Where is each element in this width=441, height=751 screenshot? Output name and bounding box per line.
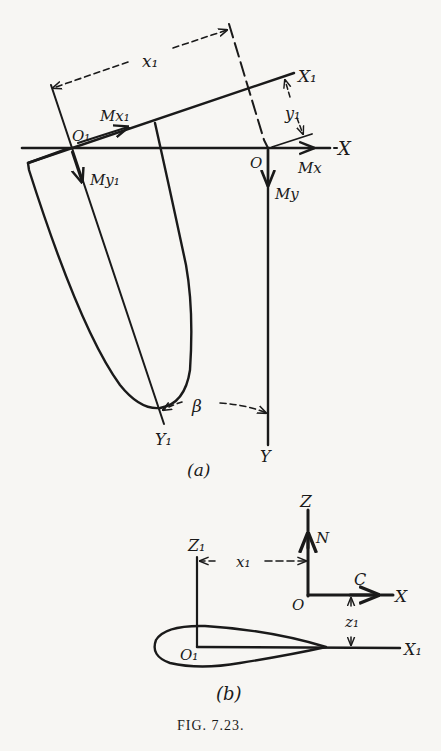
label-x1-dimension: x₁: [142, 51, 158, 71]
label-X1-axis: X₁: [296, 66, 317, 86]
wing-planform-outline: [28, 123, 191, 408]
beta-arc-right: [220, 403, 266, 413]
label-O1-b: O₁: [180, 646, 198, 664]
label-My: My: [274, 185, 299, 203]
label-C: C: [354, 570, 366, 589]
figure-canvas: x₁ X₁ y₁ O₁ Mx₁ My₁ O X Mx My β Y₁ Y (a): [0, 0, 441, 751]
label-O1: O₁: [72, 127, 90, 145]
label-Mx1: Mx₁: [99, 107, 130, 125]
label-X1-axis-b: X₁: [402, 640, 422, 659]
label-x1-dimension-b: x₁: [236, 553, 250, 571]
sublabel-a: (a): [187, 460, 210, 480]
label-O: O: [250, 154, 262, 172]
label-My1: My₁: [89, 171, 120, 189]
figure-caption: FIG. 7.23.: [177, 718, 245, 733]
part-a-diagram: x₁ X₁ y₁ O₁ Mx₁ My₁ O X Mx My β Y₁ Y (a): [22, 24, 352, 480]
x1-dimension-arrow-right: [173, 30, 227, 48]
x1-extension-dashed: [229, 24, 268, 148]
label-X-axis-b: X: [393, 586, 408, 606]
label-O-b: O: [292, 596, 304, 614]
label-beta: β: [191, 396, 202, 416]
label-Z-axis: Z: [299, 491, 313, 511]
label-Y-axis: Y: [260, 447, 272, 466]
label-z1-dimension: z₁: [344, 613, 359, 631]
label-Y1-axis: Y₁: [155, 430, 172, 449]
x1-parallel-tick: [272, 134, 312, 147]
label-X-axis: X: [336, 138, 352, 159]
label-y1-dimension: y₁: [284, 104, 300, 123]
part-b-diagram: Z N Z₁ x₁ C O X z₁ O₁ X₁ (b): [155, 491, 422, 704]
x1-axis-line-b: [197, 647, 400, 648]
x1-dimension-arrow-left: [53, 62, 128, 88]
label-N: N: [315, 529, 330, 547]
my1-arrow: [72, 152, 82, 182]
sublabel-b: (b): [216, 683, 242, 704]
label-Mx: Mx: [297, 159, 322, 177]
y1-dimension-arrow-up: [285, 80, 290, 97]
label-Z1-axis: Z₁: [187, 536, 206, 555]
